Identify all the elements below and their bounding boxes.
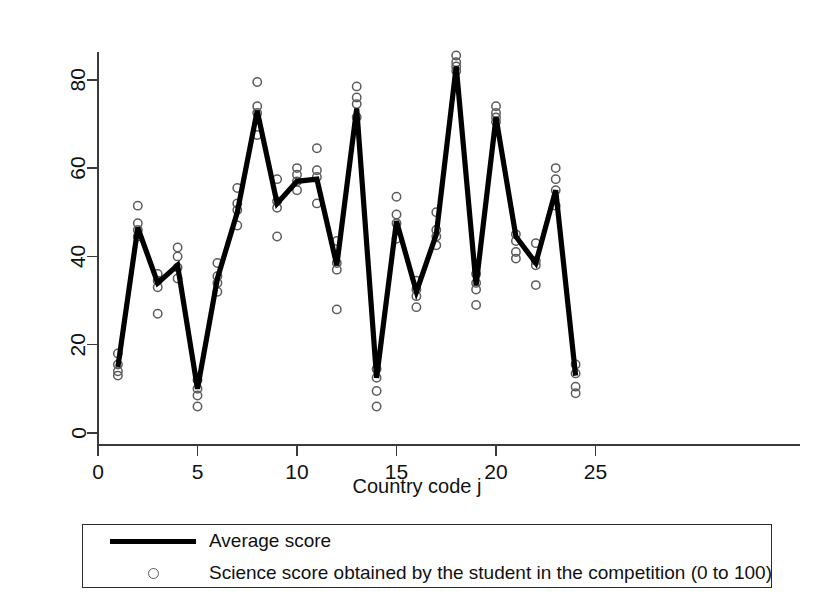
scatter-point	[353, 82, 361, 90]
scatter-point	[253, 78, 261, 86]
scatter-point	[412, 303, 420, 311]
scatter-point	[372, 402, 380, 410]
scatter-point	[134, 201, 142, 209]
y-tick-label: 40	[67, 245, 90, 268]
scatter-point	[173, 252, 181, 260]
y-tick-label: 80	[67, 68, 90, 91]
scatter-point	[392, 193, 400, 201]
scatter-point	[173, 243, 181, 251]
legend-label-science-score: Science score obtained by the student in…	[209, 562, 772, 584]
scatter-series	[114, 51, 580, 410]
x-tick-label: 5	[192, 460, 204, 483]
circle-swatch-icon	[148, 568, 159, 579]
chart-legend: Average score Science score obtained by …	[82, 524, 772, 588]
x-tick-label: 25	[584, 460, 607, 483]
average-score-series	[118, 67, 576, 389]
legend-label-average-score: Average score	[209, 530, 331, 552]
legend-entry-science-score: Science score obtained by the student in…	[83, 557, 771, 589]
scatter-point	[552, 164, 560, 172]
x-tick-label: 20	[484, 460, 507, 483]
scatter-point	[472, 301, 480, 309]
legend-key-circle	[97, 568, 209, 579]
legend-key-line	[97, 539, 209, 544]
scatter-point	[392, 210, 400, 218]
y-tick-label: 20	[67, 333, 90, 356]
x-tick-label: 0	[92, 460, 104, 483]
scatter-point	[154, 310, 162, 318]
scatter-point	[333, 305, 341, 313]
x-axis-title: Country code j	[353, 475, 482, 497]
scatter-point	[552, 175, 560, 183]
scatter-point	[193, 402, 201, 410]
line-scatter-chart: 020406080 0510152025 Country code j	[0, 0, 834, 510]
line-swatch-icon	[110, 539, 196, 544]
scatter-point	[532, 281, 540, 289]
y-axis-ticks: 020406080	[67, 68, 99, 439]
legend-entry-average-score: Average score	[83, 525, 771, 557]
y-tick-label: 0	[67, 427, 90, 439]
average-score-line	[118, 67, 576, 389]
scatter-point	[313, 144, 321, 152]
scatter-point	[372, 387, 380, 395]
y-tick-label: 60	[67, 156, 90, 179]
plot-area: 020406080 0510152025 Country code j	[0, 0, 834, 510]
scatter-point	[273, 232, 281, 240]
x-tick-label: 10	[285, 460, 308, 483]
chart-figure: 020406080 0510152025 Country code j Aver…	[0, 0, 834, 614]
x-axis-ticks: 0510152025	[92, 445, 607, 483]
